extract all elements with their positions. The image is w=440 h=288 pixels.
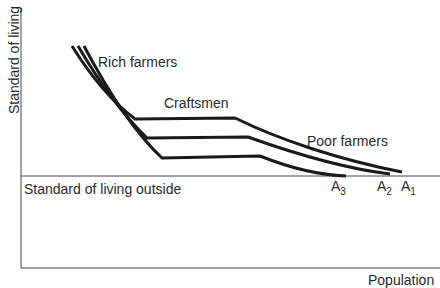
endpoint-a2: A2 xyxy=(377,178,392,197)
endpoint-a3: A3 xyxy=(331,178,346,197)
x-axis-label: Population xyxy=(368,272,434,288)
label-craftsmen: Craftsmen xyxy=(164,95,229,111)
y-axis-label: Standard of living xyxy=(6,0,22,120)
label-rich-farmers: Rich farmers xyxy=(98,54,177,70)
label-poor-farmers: Poor farmers xyxy=(307,133,388,149)
label-outside-standard: Standard of living outside xyxy=(24,181,181,197)
endpoint-a1: A1 xyxy=(401,178,416,197)
